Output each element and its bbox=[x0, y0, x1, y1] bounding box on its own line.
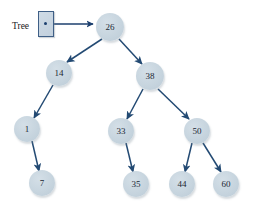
tree-node-38[interactable]: 38 bbox=[136, 62, 164, 90]
tree-node-14[interactable]: 14 bbox=[46, 60, 72, 86]
pointer-dot-icon bbox=[44, 22, 47, 25]
tree-node-60[interactable]: 60 bbox=[213, 171, 239, 197]
tree-node-33[interactable]: 33 bbox=[108, 118, 134, 144]
tree-node-label: 14 bbox=[54, 69, 63, 78]
tree-node-label: 50 bbox=[192, 127, 201, 136]
tree-edge bbox=[119, 39, 142, 64]
tree-node-label: 35 bbox=[131, 180, 140, 189]
tree-node-50[interactable]: 50 bbox=[184, 118, 210, 144]
tree-node-1[interactable]: 1 bbox=[14, 116, 40, 142]
edge-group bbox=[32, 39, 221, 172]
tree-node-35[interactable]: 35 bbox=[123, 171, 149, 197]
tree-variable-label: Tree bbox=[12, 21, 29, 31]
tree-edge bbox=[185, 143, 192, 172]
tree-node-label: 38 bbox=[145, 72, 154, 81]
tree-edge bbox=[127, 89, 143, 119]
tree-edge bbox=[34, 85, 53, 118]
tree-edge bbox=[203, 143, 221, 172]
tree-node-label: 1 bbox=[25, 125, 30, 134]
tree-node-44[interactable]: 44 bbox=[169, 171, 195, 197]
tree-edge bbox=[126, 143, 133, 172]
tree-node-label: 26 bbox=[105, 23, 114, 32]
tree-node-26[interactable]: 26 bbox=[96, 13, 124, 41]
tree-node-label: 60 bbox=[221, 180, 230, 189]
tree-edge bbox=[67, 39, 102, 62]
tree-edge bbox=[32, 141, 39, 171]
tree-node-label: 7 bbox=[40, 179, 45, 188]
tree-node-label: 44 bbox=[177, 180, 186, 189]
tree-diagram-canvas: Tree 261438133507354460 bbox=[0, 0, 255, 212]
tree-edge bbox=[158, 89, 189, 119]
tree-node-label: 33 bbox=[116, 127, 125, 136]
tree-node-7[interactable]: 7 bbox=[29, 170, 55, 196]
